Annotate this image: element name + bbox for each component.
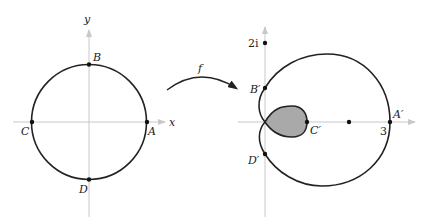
point-d-label: D	[78, 183, 88, 196]
point-d-prime	[263, 152, 267, 156]
point-a-prime-label: A′	[392, 108, 404, 121]
right-plane: 2i A′ B′ C′ D′ 3	[238, 27, 415, 217]
left-y-axis-label: y	[83, 13, 91, 26]
mapping-arrow-curve	[167, 77, 236, 90]
tick-3-label: 3	[380, 125, 387, 138]
left-plane: x y A B C D	[13, 13, 176, 217]
point-b	[87, 62, 91, 66]
point-c	[30, 120, 34, 124]
diagram-canvas: x y A B C D f 2i A′ B′ C′ D′ 3	[0, 0, 430, 224]
point-d	[87, 177, 91, 181]
point-b-prime-label: B′	[249, 83, 261, 96]
mapping-label: f	[197, 62, 204, 75]
center-point	[347, 120, 351, 124]
tick-2i	[263, 41, 267, 45]
point-c-prime-label: C′	[310, 124, 321, 137]
point-a-prime	[388, 120, 392, 124]
point-a	[145, 120, 149, 124]
point-b-label: B	[92, 51, 101, 64]
mapping-arrow: f	[167, 62, 236, 90]
left-x-axis-label: x	[169, 116, 176, 129]
point-b-prime	[263, 86, 267, 90]
point-a-label: A	[147, 125, 156, 138]
point-c-label: C	[21, 125, 30, 138]
point-d-prime-label: D′	[247, 154, 260, 167]
inner-loop-region	[265, 106, 307, 137]
tick-2i-label: 2i	[248, 37, 259, 50]
point-c-prime	[305, 120, 309, 124]
